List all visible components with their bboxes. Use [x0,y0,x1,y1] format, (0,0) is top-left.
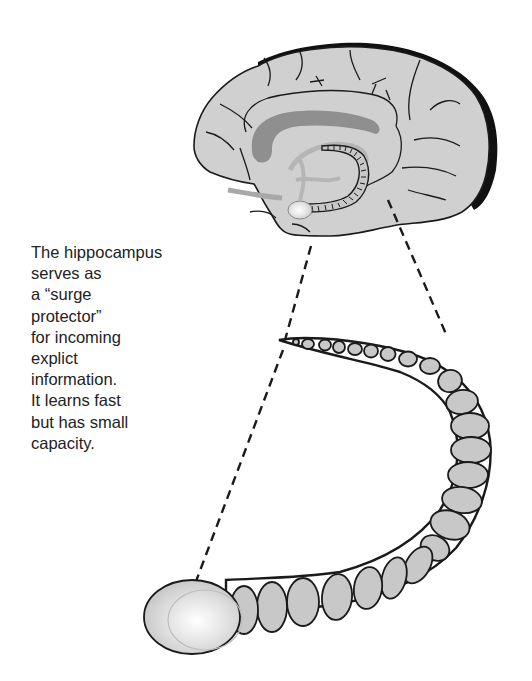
caption-line: serves as [31,263,211,284]
brain-amygdala [288,201,312,219]
caption-line: It learns fast [31,390,211,411]
zoom-lines [195,200,446,584]
caption-line: information. [31,369,211,390]
enlarged-amygdala [144,580,240,654]
caption-line: a “surge [31,284,211,305]
caption-line: capacity. [31,433,211,454]
caption-text: The hippocampus serves as a “surge prote… [31,242,211,454]
caption-line: for incoming [31,327,211,348]
brain-illustration [194,43,497,236]
caption-line: The hippocampus [31,242,211,263]
caption-line: protector” [31,306,211,327]
zoom-line-left-top [285,246,311,340]
caption-line: but has small [31,412,211,433]
caption-line: explict [31,348,211,369]
